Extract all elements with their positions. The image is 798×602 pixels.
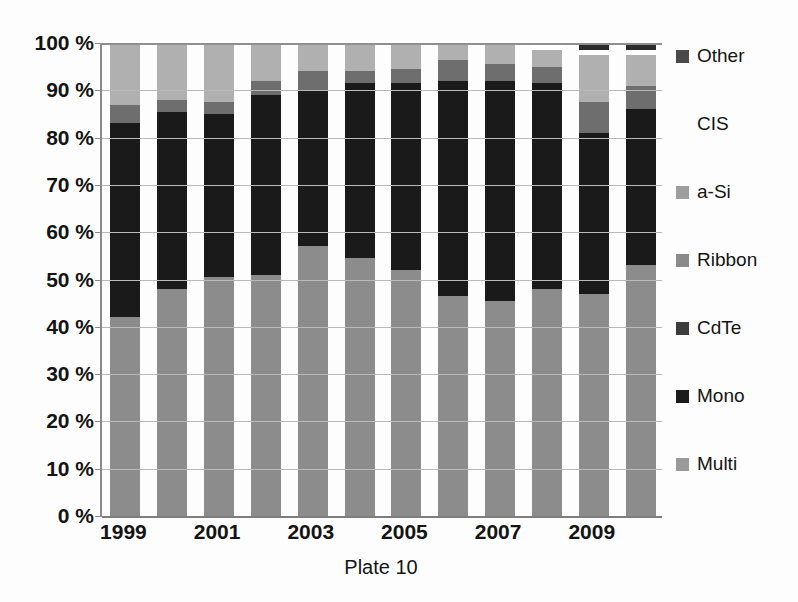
legend-label: a-Si [697, 181, 731, 203]
bar-segment [110, 105, 140, 124]
legend-swatch-icon [676, 254, 689, 267]
bar-segment [579, 133, 609, 294]
bar-segment [626, 109, 656, 265]
y-tick-label: 40 % [46, 315, 94, 339]
y-tick-label: 60 % [46, 220, 94, 244]
bar-segment [204, 277, 234, 516]
bar-segment [485, 81, 515, 301]
y-tick-label: 80 % [46, 126, 94, 150]
bar-segment [157, 289, 187, 516]
legend-item-multi[interactable]: Multi [676, 453, 737, 475]
bar-segment [485, 43, 515, 64]
legend-item-other[interactable]: Other [676, 45, 745, 67]
y-tick-mark [95, 90, 102, 91]
x-axis-title: Plate 10 [100, 556, 662, 579]
bar-segment [485, 64, 515, 81]
x-axis: 199920012003200520072009 [100, 518, 662, 552]
y-tick-mark [95, 374, 102, 375]
y-tick-label: 50 % [46, 268, 94, 292]
bar-segment [391, 83, 421, 270]
legend-swatch-icon [676, 50, 689, 63]
bar-segment [251, 43, 281, 81]
bar-segment [532, 289, 562, 516]
legend-label: CdTe [697, 317, 741, 339]
bar-segment [438, 43, 468, 60]
gridline [102, 469, 662, 470]
y-tick-mark [95, 232, 102, 233]
bar-segment [626, 55, 656, 86]
gridline [102, 90, 662, 91]
y-axis: 0 %10 %20 %30 %40 %50 %60 %70 %80 %90 %1… [26, 30, 100, 525]
legend-label: Other [697, 45, 745, 67]
bar-segment [532, 50, 562, 67]
bar-segment [438, 296, 468, 516]
bar-segment [204, 102, 234, 114]
gridline [102, 138, 662, 139]
legend-swatch-icon [676, 390, 689, 403]
bar-segment [626, 50, 656, 55]
bar-segment [298, 71, 328, 90]
gridline [102, 327, 662, 328]
legend-label: Multi [697, 453, 737, 475]
legend-swatch-icon [676, 186, 689, 199]
legend-item-mono[interactable]: Mono [676, 385, 745, 407]
gridline [102, 280, 662, 281]
bar-segment [345, 43, 375, 71]
gridline [102, 185, 662, 186]
bar-segment [345, 258, 375, 516]
bar-segment [345, 71, 375, 83]
y-tick-mark [95, 43, 102, 44]
y-tick-mark [95, 280, 102, 281]
legend-item-ribbon[interactable]: Ribbon [676, 249, 757, 271]
bar-segment [438, 60, 468, 81]
y-tick-mark [95, 138, 102, 139]
y-tick-label: 100 % [34, 31, 94, 55]
y-tick-mark [95, 421, 102, 422]
bar-segment [626, 86, 656, 110]
y-tick-label: 20 % [46, 409, 94, 433]
bar-segment [298, 43, 328, 71]
y-tick-label: 30 % [46, 362, 94, 386]
y-tick-mark [95, 469, 102, 470]
bar-segment [391, 270, 421, 516]
y-tick-mark [95, 327, 102, 328]
bar-segment [251, 275, 281, 516]
gridline [102, 374, 662, 375]
legend-swatch-icon [676, 458, 689, 471]
gridline [102, 232, 662, 233]
legend-item-a-si[interactable]: a-Si [676, 181, 731, 203]
y-tick-label: 90 % [46, 78, 94, 102]
legend-label: Mono [697, 385, 745, 407]
bar-segment [579, 102, 609, 133]
x-tick-label: 2007 [475, 520, 522, 544]
gridline [102, 43, 662, 45]
bar-segment [204, 43, 234, 102]
bar-segment [532, 67, 562, 84]
bar-segment [251, 81, 281, 95]
bar-segment [110, 123, 140, 317]
bar-segment [298, 246, 328, 516]
legend-swatch-icon [676, 118, 689, 131]
y-tick-label: 0 % [58, 504, 94, 528]
legend-label: CIS [697, 113, 729, 135]
gridline [102, 421, 662, 422]
bar-segment [438, 81, 468, 296]
x-tick-label: 2009 [568, 520, 615, 544]
bar-segment [110, 317, 140, 516]
x-tick-label: 2001 [194, 520, 241, 544]
y-tick-mark [95, 516, 102, 517]
bar-segment [579, 50, 609, 55]
stacked-bar-chart: 0 %10 %20 %30 %40 %50 %60 %70 %80 %90 %1… [0, 0, 798, 602]
x-tick-label: 2003 [287, 520, 334, 544]
legend-item-cdte[interactable]: CdTe [676, 317, 741, 339]
y-tick-mark [95, 185, 102, 186]
chart-legend: OtherCISa-SiRibbonCdTeMonoMulti [676, 40, 794, 520]
bar-segment [391, 43, 421, 69]
y-tick-label: 10 % [46, 457, 94, 481]
bar-segment [391, 69, 421, 83]
bar-segment [298, 90, 328, 246]
legend-label: Ribbon [697, 249, 757, 271]
bar-segment [532, 83, 562, 289]
legend-item-cis[interactable]: CIS [676, 113, 729, 135]
bar-segment [157, 100, 187, 112]
